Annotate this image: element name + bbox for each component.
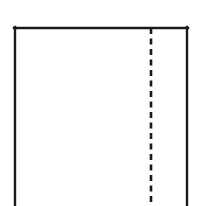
drawing-background bbox=[0, 0, 210, 206]
line-drawing-svg bbox=[0, 0, 210, 206]
figure-canvas bbox=[0, 0, 210, 206]
